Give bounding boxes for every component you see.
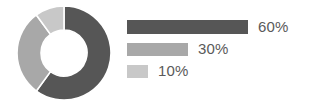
legend-item-30[interactable]: 30% bbox=[127, 41, 229, 57]
legend-label-10: 10% bbox=[158, 63, 189, 79]
legend-bar-60 bbox=[127, 20, 248, 34]
chart-canvas: 60% 30% 10% bbox=[0, 0, 309, 104]
legend-bar-30 bbox=[127, 43, 188, 56]
legend-label-60: 60% bbox=[258, 19, 289, 35]
donut-chart bbox=[17, 6, 111, 100]
legend-item-60[interactable]: 60% bbox=[127, 19, 289, 35]
chart-legend: 60% 30% 10% bbox=[127, 19, 309, 89]
donut-chart-svg bbox=[17, 6, 111, 100]
legend-label-30: 30% bbox=[198, 41, 229, 57]
donut-slices bbox=[17, 6, 111, 100]
legend-bar-10 bbox=[127, 65, 148, 78]
legend-item-10[interactable]: 10% bbox=[127, 63, 189, 79]
